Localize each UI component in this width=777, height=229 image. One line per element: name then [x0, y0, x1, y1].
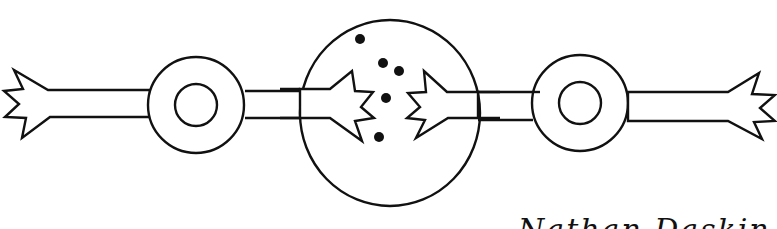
caption-right: Nathan Daskin	[518, 212, 771, 229]
right-tube-in-circle	[478, 92, 500, 118]
dot	[374, 132, 384, 142]
caption: Nathan Daskin	[300, 212, 777, 229]
dot	[381, 93, 391, 103]
right-hand-tube	[628, 73, 775, 139]
dot	[355, 34, 365, 44]
dot	[394, 66, 404, 76]
left-hand-tube	[4, 70, 150, 138]
synapse-diagram	[0, 0, 777, 229]
dot	[378, 58, 388, 68]
right-ring-inner	[559, 82, 601, 124]
right-inner-tube	[478, 92, 540, 120]
left-tube-in-circle	[280, 89, 300, 118]
left-ring-inner	[175, 84, 217, 126]
